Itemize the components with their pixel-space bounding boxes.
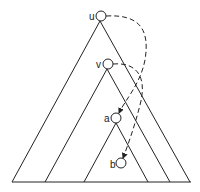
node-u: u <box>89 11 106 22</box>
node-a-label: a <box>104 113 110 124</box>
subtree-a-triangle <box>84 123 148 182</box>
node-u-label: u <box>89 11 95 22</box>
node-a: a <box>104 113 121 124</box>
node-b: b <box>110 158 126 170</box>
subtree-u-triangle <box>12 21 190 182</box>
tree-diagram: u v a b <box>0 0 200 192</box>
subtree-v-triangle <box>45 69 170 182</box>
node-b-label: b <box>110 159 116 170</box>
node-v: v <box>96 59 113 70</box>
node-v-label: v <box>96 59 101 70</box>
